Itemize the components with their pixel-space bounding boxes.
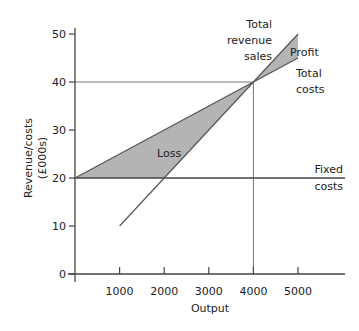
revenue-label-line2: revenue (227, 34, 272, 47)
total-costs-line (75, 58, 298, 178)
revenue-label-line1: Total (245, 18, 272, 31)
x-axis-label: Output (191, 302, 230, 315)
fixed-costs-label-line2: costs (314, 180, 343, 193)
y-axis-label: Revenue/costs (22, 118, 35, 198)
x-tick-label: 4000 (239, 285, 267, 298)
break-even-chart: 0 10 20 30 40 50 1000 2000 3000 4000 500… (0, 0, 359, 331)
y-tick-label: 20 (52, 172, 66, 185)
y-tick-label: 50 (52, 28, 66, 41)
x-tick-label: 1000 (106, 285, 134, 298)
y-tick-label: 0 (59, 268, 66, 281)
x-tick-label: 5000 (284, 285, 312, 298)
fixed-costs-label-line1: Fixed (314, 163, 343, 176)
y-ticks (69, 34, 75, 274)
x-tick-label: 2000 (150, 285, 178, 298)
loss-label: Loss (157, 147, 181, 160)
revenue-label-line3: sales (244, 50, 272, 63)
y-tick-label: 10 (52, 220, 66, 233)
total-costs-label-line2: costs (296, 83, 325, 96)
y-axis-sublabel: (£000s) (36, 137, 49, 179)
x-ticks (120, 267, 298, 274)
y-tick-label: 30 (52, 124, 66, 137)
profit-label: Profit (290, 46, 319, 59)
total-costs-label-line1: Total (295, 67, 322, 80)
y-tick-label: 40 (52, 76, 66, 89)
x-tick-label: 3000 (195, 285, 223, 298)
